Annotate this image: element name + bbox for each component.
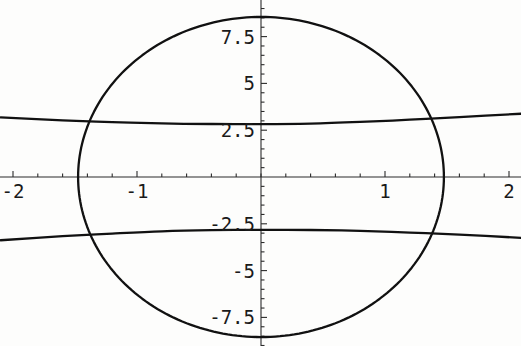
y-tick-label: 7.5: [221, 26, 255, 48]
plot-canvas: -2-112 -7.5-5-2.52.557.5: [0, 0, 521, 346]
implicit-plot-figure: -2-112 -7.5-5-2.52.557.5: [0, 0, 521, 346]
y-tick-label: 2.5: [221, 119, 255, 141]
y-tick-label: -2.5: [209, 213, 255, 235]
x-tick-label: 2: [503, 180, 514, 202]
x-tick-label: 1: [379, 180, 390, 202]
y-tick-label: 5: [244, 72, 255, 94]
y-tick-label: -7.5: [209, 306, 255, 328]
y-tick-label: -5: [232, 260, 255, 282]
x-tick-label: -2: [2, 180, 25, 202]
x-tick-label: -1: [126, 180, 149, 202]
